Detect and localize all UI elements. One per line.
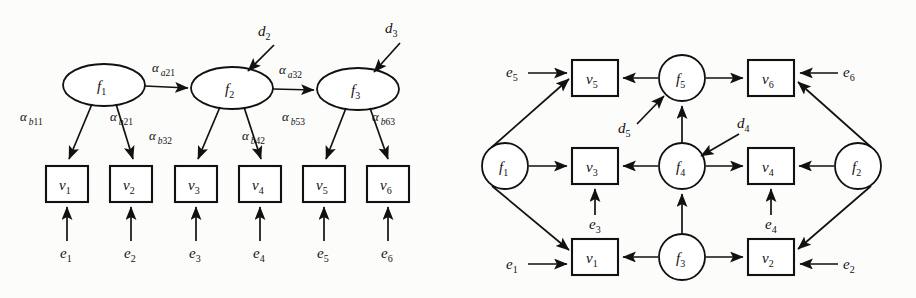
label-alpha-b11: αb11: [20, 109, 43, 127]
diagram-svg: f1 f2 f3 v1 v2 v3 v4 v5 v6: [0, 0, 916, 298]
node-f1-left[interactable]: [63, 64, 145, 106]
label-d5-right: d5: [618, 120, 631, 139]
label-alpha-b21: αb21: [110, 109, 133, 127]
label-d2-left: d2: [258, 23, 271, 42]
label-e2-right: e2: [843, 256, 855, 275]
node-v2-left[interactable]: [110, 166, 152, 202]
figure-canvas: f1 f2 f3 v1 v2 v3 v4 v5 v6: [0, 0, 916, 298]
node-v5-left[interactable]: [303, 166, 345, 202]
label-e3-left: e3: [189, 245, 201, 264]
label-e5-right: e5: [506, 64, 518, 83]
edge-f1-v1-left: [69, 104, 92, 159]
node-v3-right[interactable]: [572, 148, 618, 184]
node-v6-right[interactable]: [748, 60, 794, 96]
label-e4-right: e4: [765, 216, 777, 235]
edge-f1-v5-right: [492, 79, 569, 147]
edge-f1-f2-left: [145, 86, 188, 88]
label-alpha-a32: αa32: [279, 62, 302, 80]
edge-d4-f4-right: [701, 134, 739, 156]
node-v6-left[interactable]: [367, 166, 409, 202]
node-f2-right[interactable]: [835, 143, 881, 189]
node-f1-right[interactable]: [482, 143, 528, 189]
right-panel-group: v5 v6 v3 v4 v1 v2 f1 f2 f3 f4 f5 e5 e6 e…: [482, 55, 881, 280]
label-e3-right: e3: [589, 216, 601, 235]
edge-d2-f2-left: [248, 45, 274, 71]
node-v1-right[interactable]: [572, 239, 618, 275]
node-f2-left[interactable]: [191, 67, 273, 109]
edge-f2-v2-right: [798, 186, 871, 249]
label-e1-right: e1: [506, 256, 518, 275]
edge-f2-v6-right: [798, 82, 871, 147]
edge-f1-v1-right: [492, 186, 569, 250]
node-v3-left[interactable]: [175, 166, 217, 202]
label-d3-left: d3: [385, 20, 398, 39]
node-v2-right[interactable]: [748, 239, 794, 275]
edge-d5-f5-right: [637, 96, 664, 124]
node-f4-right[interactable]: [659, 143, 705, 189]
label-alpha-b53: αb53: [282, 109, 305, 127]
node-v4-right[interactable]: [748, 148, 794, 184]
label-alpha-b32: αb32: [149, 128, 172, 146]
edge-f2-v3-left: [198, 107, 220, 159]
label-e1-left: e1: [60, 245, 72, 264]
edge-d3-f3-left: [374, 43, 400, 72]
label-e2-left: e2: [124, 245, 136, 264]
edge-f1-v2-left: [116, 104, 133, 159]
left-panel-group: f1 f2 f3 v1 v2 v3 v4 v5 v6: [20, 20, 409, 264]
edge-f3-v5-left: [326, 108, 346, 159]
label-d4-right: d4: [737, 115, 750, 134]
node-v5-right[interactable]: [572, 60, 618, 96]
node-v1-left[interactable]: [46, 166, 88, 202]
label-alpha-a21: αa21: [152, 60, 175, 78]
label-e6-left: e6: [381, 245, 393, 264]
node-v4-left[interactable]: [239, 166, 281, 202]
node-f3-left[interactable]: [317, 68, 399, 110]
label-e4-left: e4: [253, 245, 265, 264]
edge-f2-f3-left: [273, 89, 314, 90]
node-f5-right[interactable]: [659, 55, 705, 101]
label-alpha-b42: αb42: [242, 128, 265, 146]
label-e6-right: e6: [843, 64, 855, 83]
node-f3-right[interactable]: [659, 234, 705, 280]
label-e5-left: e5: [317, 245, 329, 264]
